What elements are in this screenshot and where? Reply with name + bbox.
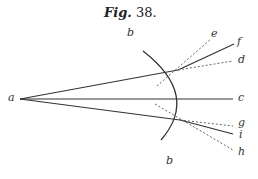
ray-upper-incident: [20, 70, 178, 99]
ray-lower-incident: [20, 99, 180, 120]
label-d: d: [238, 54, 245, 65]
ray-e-dashed: [157, 39, 211, 86]
label-h: h: [238, 146, 245, 157]
label-b-top: b: [127, 27, 134, 38]
label-c: c: [238, 92, 244, 103]
label-i: i: [239, 129, 243, 140]
label-e: e: [211, 28, 218, 39]
ray-h-dashed: [155, 104, 233, 150]
label-b-bottom: b: [166, 155, 173, 166]
arc-bb: [143, 51, 177, 140]
ray-d-dashed: [178, 61, 233, 70]
ray-i: [180, 120, 233, 134]
label-f: f: [237, 36, 241, 47]
ray-f: [178, 44, 234, 70]
ray-g-dashed: [180, 120, 233, 126]
figure-38: Fig. 38. a b b c d e f g i h: [0, 0, 258, 179]
label-g: g: [238, 117, 245, 128]
label-a: a: [8, 92, 15, 103]
